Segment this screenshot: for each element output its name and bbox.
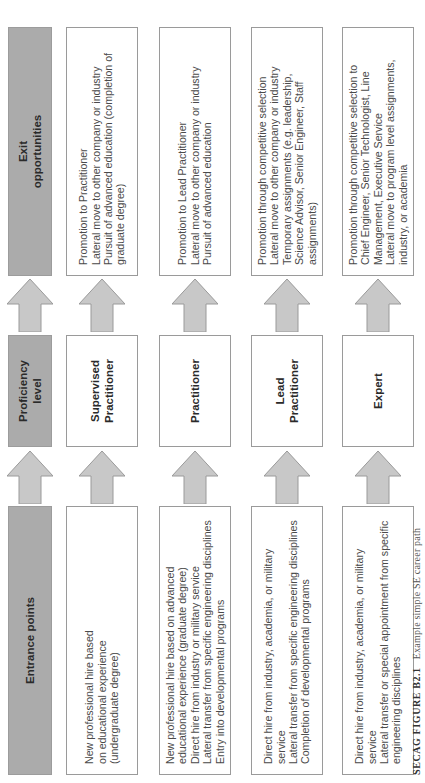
header-proficiency-label: Proficiency level xyxy=(16,360,44,422)
arrow-right-icon xyxy=(264,450,310,504)
entrance-box-row-3: Direct hire from industry, academia, or … xyxy=(251,506,323,775)
entrance-text: Direct hire from industry, academia, or … xyxy=(262,507,312,774)
caption-text: Example simple SE career path xyxy=(411,528,422,659)
exit-box-row-4: Promotion through competitive selection … xyxy=(342,27,414,276)
arrow-right-icon xyxy=(264,278,310,332)
arrow-right-icon xyxy=(7,450,53,504)
proficiency-label: Lead Practitioner xyxy=(273,359,301,423)
proficiency-label: Practitioner xyxy=(188,359,202,423)
header-exit-opportunities: Exit opportunities xyxy=(8,27,52,276)
header-entrance-label: Entrance points xyxy=(23,597,37,684)
exit-box-row-2: Promotion to Lead Practitioner Lateral m… xyxy=(159,27,231,276)
arrow-right-icon xyxy=(79,278,125,332)
proficiency-box-expert: Expert xyxy=(342,335,414,447)
proficiency-label: Expert xyxy=(371,373,385,409)
entrance-box-row-4: Direct hire from industry, academia, or … xyxy=(342,506,414,775)
arrow-right-icon xyxy=(172,450,218,504)
entrance-text: New professional hire based on education… xyxy=(83,620,120,774)
proficiency-label: Supervised Practitioner xyxy=(88,359,116,423)
entrance-box-row-2: New professional hire based on advanced … xyxy=(159,506,231,775)
header-exit-label: Exit opportunities xyxy=(16,115,44,188)
caption-label: SECAG FIGURE B2.1 xyxy=(411,667,422,775)
exit-text: Promotion through competitive selection … xyxy=(256,57,318,275)
exit-box-row-1: Promotion to Practitioner Lateral move t… xyxy=(66,27,138,276)
proficiency-box-lead-practitioner: Lead Practitioner xyxy=(251,335,323,447)
exit-text: Promotion through competitive selection … xyxy=(347,50,409,276)
exit-text: Promotion to Lead Practitioner Lateral m… xyxy=(176,57,213,275)
header-proficiency-level: Proficiency level xyxy=(8,335,52,447)
exit-text: Promotion to Practitioner Lateral move t… xyxy=(77,43,127,275)
proficiency-box-supervised-practitioner: Supervised Practitioner xyxy=(66,335,138,447)
arrow-right-icon xyxy=(355,278,401,332)
proficiency-box-practitioner: Practitioner xyxy=(159,335,231,447)
entrance-text: New professional hire based on advanced … xyxy=(164,510,226,774)
arrow-right-icon xyxy=(7,278,53,332)
entrance-text: Direct hire from industry, academia, or … xyxy=(353,507,403,774)
arrow-right-icon xyxy=(172,278,218,332)
arrow-right-icon xyxy=(79,450,125,504)
exit-box-row-3: Promotion through competitive selection … xyxy=(251,27,323,276)
career-path-diagram: Entrance points Proficiency level Exit o… xyxy=(0,0,425,783)
entrance-box-row-1: New professional hire based on education… xyxy=(66,506,138,775)
header-entrance-points: Entrance points xyxy=(8,506,52,775)
arrow-right-icon xyxy=(355,450,401,504)
figure-caption: SECAG FIGURE B2.1 Example simple SE care… xyxy=(411,528,422,775)
